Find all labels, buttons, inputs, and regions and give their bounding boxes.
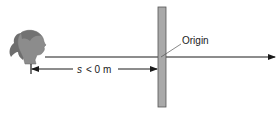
measure-variable: s <box>77 64 82 75</box>
vertical-pole-icon <box>158 7 166 107</box>
person-head-profile-icon <box>10 30 46 64</box>
position-diagram: Origin s< 0 m <box>0 0 280 113</box>
measure-relation: < 0 m <box>86 64 111 75</box>
origin-label: Origin <box>182 35 209 46</box>
measure-label: s< 0 m <box>77 64 111 75</box>
